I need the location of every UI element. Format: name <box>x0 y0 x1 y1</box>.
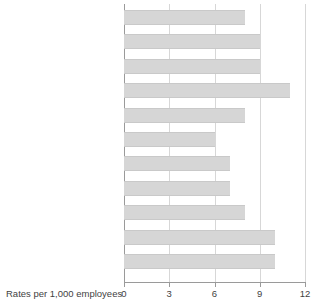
bar-row: Wales <box>124 228 305 252</box>
bar-row: South West <box>124 179 305 203</box>
x-axis-tick-label: 12 <box>300 288 311 300</box>
bar-row: West Midlands <box>124 81 305 105</box>
bar <box>124 230 275 245</box>
plot-area: United KingdomNorth WestYorkshire and th… <box>124 4 305 282</box>
bar <box>124 34 260 49</box>
bar <box>124 181 230 196</box>
bar <box>124 254 275 269</box>
bar <box>124 83 290 98</box>
x-axis-tick-label: 9 <box>257 288 262 300</box>
x-axis-tick-label: 3 <box>167 288 172 300</box>
x-axis-tick-label: 6 <box>212 288 217 300</box>
bar <box>124 156 230 171</box>
x-axis-tick <box>260 282 261 287</box>
bar-row: North West <box>124 32 305 56</box>
x-axis-tick <box>169 282 170 287</box>
bar-row: South East <box>124 154 305 178</box>
bar-rows: United KingdomNorth WestYorkshire and th… <box>124 4 305 282</box>
bar-chart: United KingdomNorth WestYorkshire and th… <box>0 0 314 306</box>
bar-row: East <box>124 106 305 130</box>
gridline <box>305 4 306 282</box>
bar-row: Yorkshire and the Humber <box>124 57 305 81</box>
bar-row: United Kingdom <box>124 8 305 32</box>
bar-row: England <box>124 203 305 227</box>
x-axis-tick <box>215 282 216 287</box>
bar <box>124 59 260 74</box>
bar-row: Scotland <box>124 252 305 276</box>
bar <box>124 10 245 25</box>
x-axis-tick <box>305 282 306 287</box>
bar <box>124 132 215 147</box>
x-axis-tick <box>124 282 125 287</box>
bar <box>124 205 245 220</box>
x-axis-title: Rates per 1,000 employees <box>6 288 118 300</box>
bar <box>124 108 245 123</box>
bar-row: London <box>124 130 305 154</box>
x-axis-tick-label: 0 <box>121 288 126 300</box>
